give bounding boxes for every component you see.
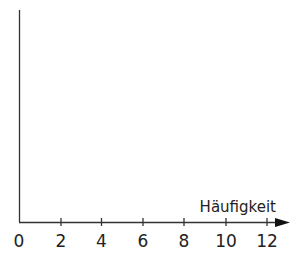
tick-label: 0 <box>14 231 25 251</box>
tick-label: 12 <box>256 231 278 251</box>
tick-label: 6 <box>138 231 149 251</box>
tick-label: 2 <box>56 231 67 251</box>
x-tick-labels: 0 2 4 6 8 10 12 <box>14 231 278 251</box>
tick-label: 10 <box>215 231 237 251</box>
tick-label: 4 <box>96 231 107 251</box>
x-axis-arrow-icon <box>275 218 290 227</box>
x-axis-title: Häufigkeit <box>200 198 276 216</box>
chart-area: 0 2 4 6 8 10 12 Häufigkeit <box>0 0 294 260</box>
tick-label: 8 <box>179 231 190 251</box>
